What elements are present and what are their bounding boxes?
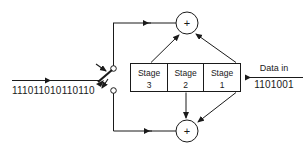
feed-lines-top [151, 34, 236, 63]
diagram-canvas: Stage 3 Stage 2 Stage 1 + + Data in 1101… [0, 0, 305, 150]
switch-lower-contact[interactable] [111, 88, 117, 94]
feed-lines-bottom [186, 93, 236, 123]
stage-1-name: Stage [211, 69, 233, 78]
bottom-adder-symbol: + [184, 126, 190, 137]
top-feedback-path [113, 23, 176, 66]
data-in-label: Data in [260, 64, 289, 73]
stage-3-name: Stage [138, 69, 160, 78]
stage-1-number: 1 [220, 81, 225, 90]
stage-3-number: 3 [147, 81, 152, 90]
top-adder-symbol: + [184, 18, 190, 29]
bottom-feedback-path [114, 93, 177, 131]
data-in-bits: 1101001 [254, 80, 294, 90]
stage-2-name: Stage [174, 69, 196, 78]
output-bits: 111011010110110 [12, 86, 95, 96]
stage-2-number: 2 [183, 81, 188, 90]
